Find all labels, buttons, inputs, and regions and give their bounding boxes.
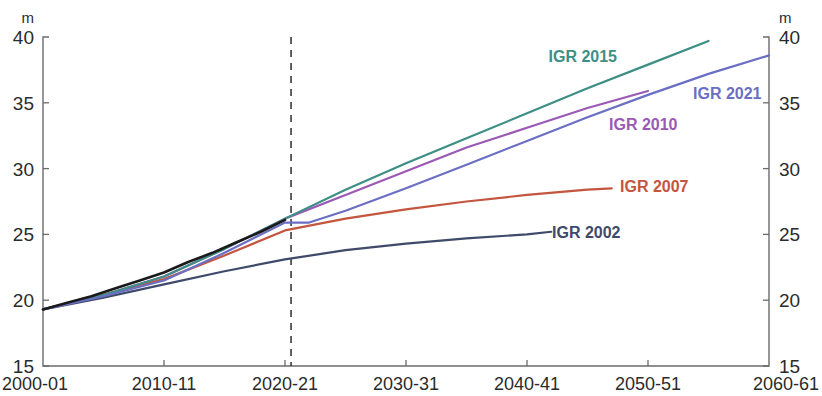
y-tick-label-left: 25 [13, 224, 34, 245]
x-tick-label: 2030-31 [373, 374, 439, 394]
series-line-igr-2010 [43, 91, 648, 309]
right-axis-spine [763, 37, 769, 366]
series-label-igr-2010: IGR 2010 [609, 116, 677, 134]
series-line-igr-2015 [43, 41, 709, 309]
series-line-history [43, 220, 285, 309]
x-tick-label: 2000-01 [2, 374, 68, 394]
x-tick-label: 2040-41 [494, 374, 560, 394]
series-label-igr-2002: IGR 2002 [552, 224, 620, 242]
y-tick-label-right: 35 [779, 93, 800, 114]
series-label-igr-2021: IGR 2021 [693, 85, 761, 103]
y-tick-label-right: 20 [779, 290, 800, 311]
chart-container: 151520202525303035354040mm2000-012010-11… [0, 0, 822, 396]
history-line-group [43, 220, 285, 309]
axes-group [43, 37, 769, 366]
y-tick-label-left: 20 [13, 290, 34, 311]
y-tick-label-right: 40 [779, 27, 800, 48]
series-line-igr-2002 [43, 232, 551, 310]
series-label-igr-2007: IGR 2007 [620, 178, 688, 196]
left-axis-unit-label: m [22, 9, 35, 26]
y-tick-label-right: 25 [779, 224, 800, 245]
y-tick-label-left: 35 [13, 93, 34, 114]
line-chart-plot: 151520202525303035354040mm2000-012010-11… [0, 0, 822, 396]
x-tick-label: 2050-51 [615, 374, 681, 394]
tick-labels-group: 151520202525303035354040mm2000-012010-11… [2, 9, 819, 394]
x-tick-label: 2020-21 [252, 374, 318, 394]
x-tick-label: 2010-11 [132, 374, 197, 394]
left-axis-spine [43, 37, 49, 366]
series-label-igr-2015: IGR 2015 [549, 48, 617, 66]
series-lines-group [43, 41, 769, 309]
y-tick-label-left: 40 [13, 27, 34, 48]
right-axis-unit-label: m [779, 9, 792, 26]
x-tick-label: 2060-61 [753, 374, 819, 394]
y-tick-label-right: 30 [779, 159, 800, 180]
y-tick-label-left: 30 [13, 159, 34, 180]
